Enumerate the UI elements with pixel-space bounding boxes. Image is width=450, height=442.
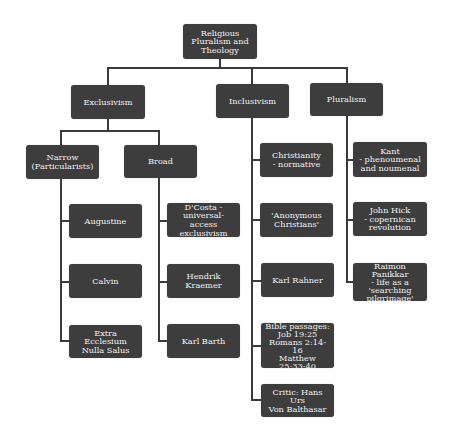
- pluralism-diagram: Religious Pluralism and Theology Exclusi…: [0, 0, 450, 442]
- node-christianity-normative[interactable]: Christianity - normative: [260, 143, 333, 177]
- node-hendrik-kraemer[interactable]: Hendrik Kraemer: [167, 264, 240, 298]
- connector-exclusivism-horizontal: [60, 130, 160, 132]
- connector-to-broad: [158, 130, 160, 146]
- connector-to-pluralism: [346, 67, 348, 84]
- node-john-hick-copernican-revolution[interactable]: John Hick - copernican revolution: [353, 202, 427, 236]
- connector-level1-horizontal: [107, 67, 348, 69]
- node-critic-hans-urs-von-balthasar[interactable]: Critic: Hans Urs Von Balthasar: [261, 384, 334, 417]
- connector-inclusivism-item-5: [251, 399, 261, 401]
- connector-to-inclusivism: [251, 67, 253, 85]
- node-bible-passages[interactable]: Bible passages: Job 19:25 Romans 2:14-16…: [261, 323, 334, 368]
- node-karl-barth[interactable]: Karl Barth: [167, 324, 240, 358]
- connector-narrow-spine: [60, 178, 62, 342]
- node-broad[interactable]: Broad: [124, 145, 197, 178]
- node-extra-ecclesium-nulla-salus[interactable]: Extra Ecclesium Nulla Salus: [69, 325, 142, 358]
- node-kant-phenoumenal-noumenal[interactable]: Kant - phenoumenal and noumenal: [353, 142, 427, 177]
- node-anonymous-christians[interactable]: 'Anonymous Christians': [260, 203, 333, 237]
- node-inclusivism[interactable]: Inclusivism: [216, 84, 289, 118]
- node-root-religious-pluralism-and-theology[interactable]: Religious Pluralism and Theology: [183, 24, 257, 59]
- node-raimon-panikkar-searching-pilgrimage[interactable]: Raimon Panikkar - life as a 'searching p…: [353, 263, 427, 301]
- connector-broad-spine: [158, 177, 160, 342]
- connector-pluralism-spine: [346, 115, 348, 283]
- connector-inclusivism-item-4: [251, 345, 261, 347]
- node-narrow-particularists[interactable]: Narrow (Particularists): [26, 145, 99, 179]
- connector-to-exclusivism: [107, 67, 109, 86]
- node-karl-rahner[interactable]: Karl Rahner: [261, 263, 334, 297]
- connector-to-narrow: [60, 130, 62, 146]
- node-calvin[interactable]: Calvin: [69, 264, 142, 298]
- connector-inclusivism-item-3: [251, 280, 261, 282]
- node-dcosta-universal-access-exclusivism[interactable]: D'Costa - universal-access exclusivism: [167, 203, 240, 237]
- node-augustine[interactable]: Augustine: [69, 204, 142, 238]
- node-exclusivism[interactable]: Exclusivism: [71, 85, 145, 119]
- node-pluralism[interactable]: Pluralism: [310, 83, 383, 116]
